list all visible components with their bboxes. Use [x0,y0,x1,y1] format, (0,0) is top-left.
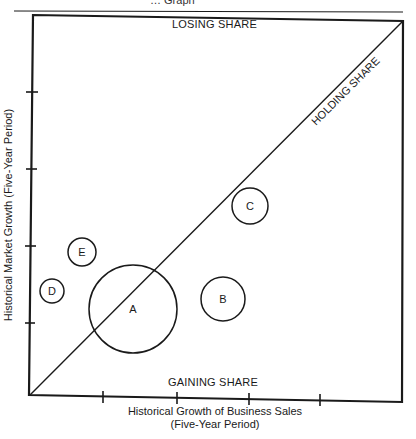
losing-share-label: LOSING SHARE [172,18,257,30]
holding-share-diagonal [30,22,402,395]
bubble-label: A [129,303,137,315]
bubble-label: D [48,285,56,297]
bubble-e: E [68,238,96,266]
bubbles: ABCDE [40,188,268,353]
market-share-graph: HOLDING SHARE ABCDE … Graph LOSING SHARE… [0,0,416,439]
bubble-a: A [89,265,177,353]
x-axis-label-line1: Historical Growth of Business Sales [105,405,325,418]
bubble-c: C [232,188,268,224]
chart-canvas: HOLDING SHARE ABCDE [0,0,416,439]
x-axis-label-line2: (Five-Year Period) [105,418,325,431]
bubble-label: C [246,200,254,212]
bubble-label: E [78,246,85,258]
header-title: … Graph [150,0,195,6]
x-axis-label: Historical Growth of Business Sales (Fiv… [105,405,325,431]
bubble-b: B [201,277,245,321]
y-axis-label: Historical Market Growth (Five-Year Peri… [2,100,14,330]
bubble-label: B [219,293,226,305]
bubble-d: D [40,279,64,303]
gaining-share-label: GAINING SHARE [168,376,258,388]
header-rule [14,11,403,12]
holding-share-label: HOLDING SHARE [309,55,382,128]
